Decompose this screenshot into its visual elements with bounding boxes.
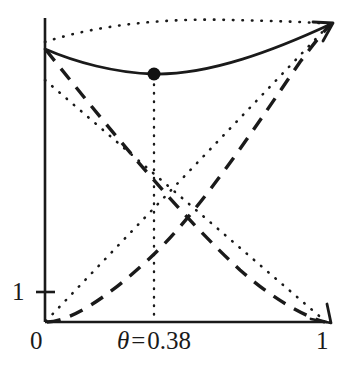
theta-equals-sign: = <box>129 327 147 354</box>
chart-figure: 0 1 1 θ=0.38 <box>0 0 358 377</box>
y-axis-label-one: 1 <box>12 279 25 304</box>
series-dashed-decreasing-curve <box>46 50 325 322</box>
minimum-point-marker <box>148 68 161 81</box>
plot-canvas <box>0 0 358 377</box>
x-axis-label-zero: 0 <box>30 328 43 353</box>
theta-annotation: θ=0.38 <box>117 328 191 353</box>
series-dotted-upper-arc <box>45 20 331 42</box>
theta-value: 0.38 <box>147 327 191 354</box>
series-dotted-increasing-line <box>46 24 330 321</box>
theta-symbol: θ <box>117 327 129 354</box>
x-axis-label-one: 1 <box>316 328 329 353</box>
series-dotted-decreasing-line <box>45 80 325 321</box>
series-dashed-increasing-curve <box>47 25 330 322</box>
